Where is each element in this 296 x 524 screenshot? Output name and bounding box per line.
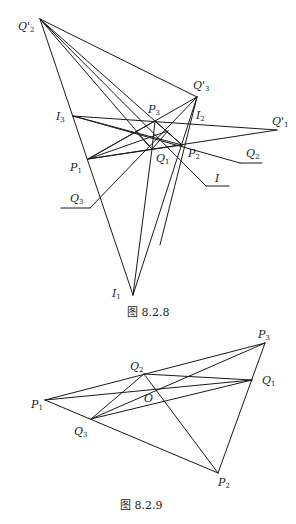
edge-q3p-i1 [133, 97, 197, 295]
line-q3-q1 [91, 380, 252, 419]
caption-figure-2: 图 8.2.9 [120, 499, 163, 512]
label-p1: P1 [69, 161, 82, 175]
edge-q2p-q3p [40, 19, 197, 97]
label-p2: P2 [187, 147, 200, 161]
label-p3: P3 [257, 328, 270, 342]
label-p2: P2 [217, 476, 230, 490]
line-p3-q1 [152, 121, 155, 149]
figure-8-2-9 [45, 343, 265, 473]
label-q1: Q1 [156, 152, 170, 166]
edge-p1-p2 [45, 400, 218, 473]
line-i3-q1p [73, 116, 277, 130]
label-i3: I3 [55, 110, 65, 124]
label-i1: I1 [111, 287, 121, 301]
geometry-figures: Q'2 Q'3 Q'1 I3 I2 I1 P1 P3 P2 Q1 Q2 Q3 I… [0, 0, 296, 524]
line-q2p-i [40, 19, 206, 186]
caption-figure-1: 图 8.2.8 [127, 306, 170, 319]
label-p3: P3 [147, 103, 160, 117]
label-q3-prime: Q'3 [193, 79, 210, 93]
label-q3: Q3 [74, 425, 88, 439]
label-o: O [144, 392, 153, 405]
label-q2-prime: Q'2 [18, 20, 35, 34]
edge-p3-p2 [218, 343, 265, 473]
label-q3: Q3 [70, 192, 84, 206]
label-q2: Q2 [130, 360, 144, 374]
label-q1: Q1 [262, 374, 276, 388]
line-q2-p2 [144, 374, 218, 473]
line-q2-q1 [144, 374, 252, 380]
labels-figure-1: Q'2 Q'3 Q'1 I3 I2 I1 P1 P3 P2 Q1 Q2 Q3 I [18, 20, 289, 301]
line-p1-p2 [88, 145, 182, 159]
label-p1: P1 [30, 398, 43, 412]
line-p1-p3 [88, 121, 155, 159]
line-q2p-q1 [40, 19, 152, 149]
label-q2: Q2 [246, 147, 260, 161]
label-i: I [214, 172, 220, 185]
label-q1-prime: Q'1 [272, 115, 289, 129]
edge-q1-i1 [133, 149, 152, 295]
label-i2: I2 [195, 109, 205, 123]
